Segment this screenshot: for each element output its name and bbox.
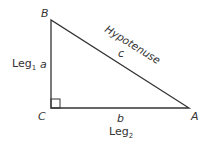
vertex-c: C — [38, 111, 46, 122]
vertex-a: A — [191, 111, 199, 122]
side-b: b — [117, 113, 124, 124]
side-c: c — [118, 48, 124, 59]
leg2-label: Leg2 — [109, 126, 133, 140]
right-angle-marker — [51, 99, 60, 108]
vertex-b: B — [41, 8, 49, 19]
side-a: a — [40, 59, 47, 70]
leg1-label: Leg1 — [12, 58, 36, 72]
triangle-figure: Hypotenuse — [0, 0, 209, 148]
